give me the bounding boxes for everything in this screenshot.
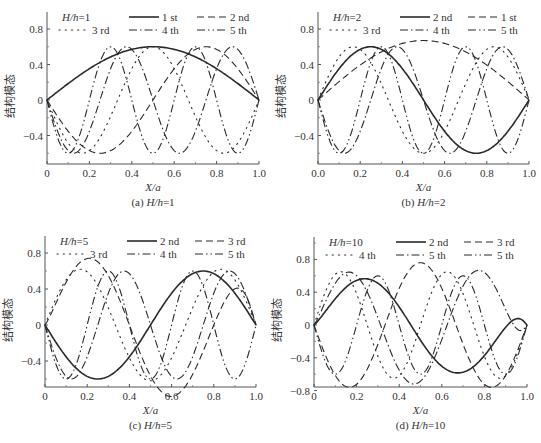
legend-label: 1 st <box>162 11 178 23</box>
x-tick-label: 0 <box>42 390 48 402</box>
x-tick-label: 0.4 <box>396 167 410 179</box>
y-axis-label: 结构模态 <box>274 74 287 118</box>
series-solid-line <box>45 271 256 379</box>
legend-entry: 4 th <box>326 249 376 261</box>
y-tick-label: −0.4 <box>294 130 314 142</box>
x-axis-label: X/a <box>415 181 432 193</box>
y-tick-label: 0 <box>36 319 42 331</box>
legend-label: 4 th <box>359 249 376 261</box>
subplot-caption: (b) H/h=2 <box>402 196 446 209</box>
y-tick-label: −0.8 <box>290 385 310 397</box>
legend-label: 2 nd <box>230 11 250 23</box>
legend-entry: 2 nd <box>127 235 180 247</box>
x-axis-label: X/a <box>142 404 159 416</box>
legend-entry: 5 th <box>195 248 245 260</box>
x-tick-label: 0.8 <box>480 167 494 179</box>
legend-label: 1 st <box>501 11 517 23</box>
x-axis-label: X/a <box>144 181 161 193</box>
legend-entry: 2 nd <box>197 11 250 23</box>
y-tick-label: −0.4 <box>290 352 310 364</box>
y-tick-label: 0 <box>309 94 315 106</box>
legend-label: 3 rd <box>92 24 110 36</box>
legend-entry: 3 rd <box>330 24 381 36</box>
y-tick-label: 0.8 <box>27 247 41 259</box>
legend-entry: 5 th <box>197 24 247 36</box>
legend-label: 2 nd <box>429 236 449 248</box>
y-axis-label: 结构模态 <box>1 298 14 342</box>
y-tick-label: 0.4 <box>27 283 41 295</box>
y-tick-label: −0.4 <box>21 355 41 367</box>
y-tick-label: 0.4 <box>296 286 310 298</box>
legend-label: 3 rd <box>363 24 381 36</box>
legend-label: 5 th <box>228 248 245 260</box>
y-axis-label: 结构模态 <box>270 298 283 342</box>
y-tick-label: 0.8 <box>29 23 43 35</box>
series-dashdot-line <box>318 47 529 154</box>
legend-entry: 3 rd <box>59 24 110 36</box>
x-tick-label: 0.4 <box>123 390 137 402</box>
x-tick-label: 0.6 <box>167 167 181 179</box>
x-tick-label: 0.6 <box>435 390 449 402</box>
x-tick-label: 0.8 <box>478 390 492 402</box>
legend-title: H/h=5 <box>59 235 89 247</box>
x-tick-label: 1.0 <box>249 390 263 402</box>
series-dashdotdot-line <box>314 276 527 374</box>
x-tick-label: 0.2 <box>83 167 97 179</box>
series-solid-line <box>47 47 259 100</box>
legend-label: 2 nd <box>433 11 453 23</box>
y-tick-label: 0 <box>305 319 311 331</box>
legend-label: 4 th <box>160 248 177 260</box>
x-axis-label: X/a <box>412 404 429 416</box>
legend-label: 5 th <box>501 24 518 36</box>
legend-label: 3 rd <box>90 248 108 260</box>
legend-label: 3 rd <box>228 235 246 247</box>
subplot-caption: (d) H/h=10 <box>396 419 446 432</box>
x-tick-label: 0 <box>44 167 50 179</box>
legend-entry: 5 th <box>464 249 514 261</box>
y-tick-label: 0.8 <box>296 253 310 265</box>
x-tick-label: 0.4 <box>125 167 139 179</box>
subplot-b: 0.00.20.40.60.81.00.80.40−0.4结构模态X/a(b) … <box>274 11 536 209</box>
series-dashed-line <box>314 263 527 388</box>
legend-label: 4 th <box>433 24 450 36</box>
x-tick-label: 0.8 <box>210 167 224 179</box>
legend-entry: 5 th <box>396 249 446 261</box>
x-tick-label: 0.8 <box>207 390 221 402</box>
x-tick-label: 0.6 <box>438 167 452 179</box>
series-dashed-line <box>47 47 259 154</box>
legend-label: 5 th <box>429 249 446 261</box>
subplot-d: 00.20.40.60.81.00.80.40−0.4−0.8结构模态X/a(d… <box>270 236 534 432</box>
x-tick-label: 1.0 <box>252 167 266 179</box>
legend-label: 5 th <box>497 249 514 261</box>
legend-entry: 1 st <box>129 11 178 23</box>
legend-entry: 3 rd <box>195 235 246 247</box>
x-tick-label: 0 <box>311 390 317 402</box>
subplot-caption: (a) H/h=1 <box>131 196 174 209</box>
legend-entry: 3 rd <box>464 236 515 248</box>
legend-entry: 2 nd <box>396 236 449 248</box>
legend-entry: 2 nd <box>400 11 453 23</box>
legend-title: H/h=1 <box>61 11 90 23</box>
legend-entry: 4 th <box>400 24 450 36</box>
subplot-a: 00.20.40.60.81.00.80.40−0.4结构模态X/a(a) H/… <box>3 11 266 209</box>
legend-title: H/h=10 <box>328 236 363 248</box>
x-tick-label: 0.2 <box>80 390 94 402</box>
legend-entry: 5 th <box>468 24 518 36</box>
legend-title: H/h=2 <box>332 11 361 23</box>
legend-label: 2 nd <box>160 235 180 247</box>
legend-label: 3 rd <box>497 236 515 248</box>
legend-entry: 4 th <box>127 248 177 260</box>
x-tick-label: 1.0 <box>520 390 534 402</box>
y-tick-label: 0.4 <box>29 59 43 71</box>
y-axis-label: 结构模态 <box>3 74 16 118</box>
y-tick-label: 0.4 <box>300 59 314 71</box>
legend-entry: 1 st <box>468 11 517 23</box>
x-tick-label: 0.2 <box>350 390 364 402</box>
legend-label: 5 th <box>230 24 247 36</box>
y-tick-label: 0 <box>38 94 44 106</box>
x-tick-label: 0.0 <box>311 167 325 179</box>
legend-entry: 3 rd <box>57 248 108 260</box>
legend-entry: 4 th <box>129 24 179 36</box>
subplot-caption: (c) H/h=5 <box>129 419 173 432</box>
subplot-c: 00.20.40.60.81.00.80.40−0.4结构模态X/a(c) H/… <box>1 235 263 432</box>
